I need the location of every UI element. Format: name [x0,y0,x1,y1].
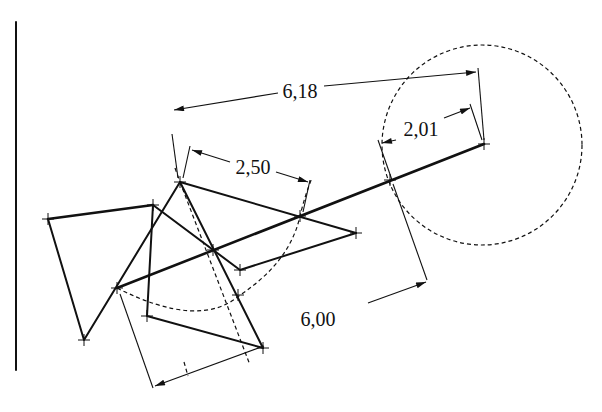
construction-diagram: 6,18 2,50 2,01 6,00 [0,0,602,412]
edge-a-k [180,182,263,348]
edge-a-h [180,182,356,233]
edge-b-i-h [153,205,356,270]
edge-b-j-k [147,205,263,348]
dimension-label-2-01: 2,01 [404,118,439,140]
edge-c-b [48,205,153,219]
left-triangle [48,182,180,340]
dimension-label-2-50: 2,50 [236,156,271,178]
dashed-arc [117,178,312,311]
dimension-label-6-18: 6,18 [283,80,318,102]
dimension-2-01: 2,01 [378,104,482,180]
dimension-label-6-00: 6,00 [301,308,336,330]
